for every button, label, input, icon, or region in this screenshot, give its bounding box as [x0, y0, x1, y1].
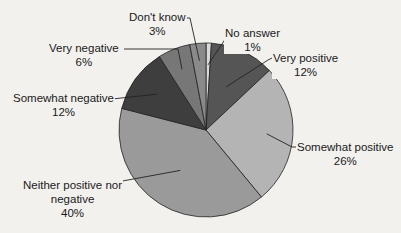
label-no-answer: No answer1% — [224, 26, 281, 54]
label-very-negative: Very negative6% — [48, 41, 120, 69]
label-somewhat-positive: Somewhat positive26% — [296, 140, 395, 168]
label-somewhat-negative: Somewhat negative12% — [12, 91, 115, 119]
label-dont-know: Don't know3% — [128, 10, 187, 38]
label-very-positive: Very positive12% — [272, 51, 339, 79]
label-neither: Neither positive nornegative40% — [22, 178, 123, 220]
